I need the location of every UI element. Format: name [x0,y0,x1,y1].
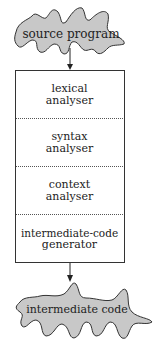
stage-line1: lexical [52,83,88,95]
intermediate-code-label: intermediate code [24,304,130,316]
stage-intermediate-code-generator: intermediate-code generator [15,215,124,262]
stage-line2: analyser [46,143,93,155]
stage-line2: generator [42,239,97,251]
stage-lexical-analyser: lexical analyser [15,71,124,118]
stage-syntax-analyser: syntax analyser [15,119,124,166]
stage-line2: analyser [46,191,93,203]
source-program-label: source program [18,28,124,40]
stage-context-analyser: context analyser [15,167,124,214]
stage-line1: context [49,179,90,191]
stage-line1: syntax [51,131,87,143]
stage-line2: analyser [46,95,93,107]
stage-line1: intermediate-code [21,227,118,239]
